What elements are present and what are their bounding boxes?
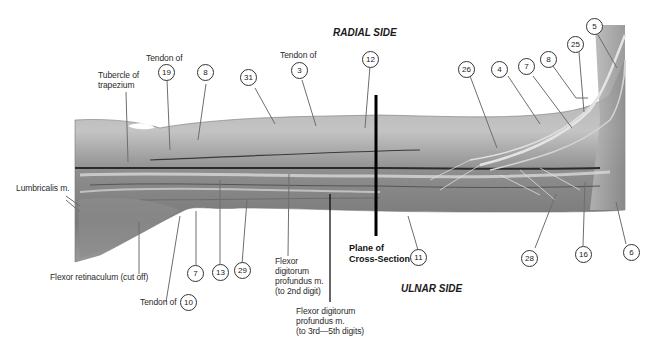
radial-side-label: RADIAL SIDE <box>333 27 397 38</box>
callout-31: 31 <box>240 69 257 86</box>
callout-29: 29 <box>234 262 251 279</box>
callout-12: 12 <box>362 51 379 68</box>
tendon-of-19-label: Tendon of <box>146 53 182 63</box>
plane-of-cross-section-label: Plane of Cross-Section <box>349 243 410 265</box>
tubercle-of-trapezium-label: Tubercle of trapezium <box>98 70 139 90</box>
callout-25: 25 <box>567 36 584 53</box>
callout-26: 26 <box>458 61 475 78</box>
callout-3: 3 <box>291 62 308 79</box>
forearm-specimen-illustration <box>0 0 659 352</box>
callout-4: 4 <box>491 61 508 78</box>
callout-11: 11 <box>410 249 427 266</box>
callout-28: 28 <box>521 250 538 267</box>
callout-19: 19 <box>158 64 175 81</box>
tendon-of-10-label: Tendon of <box>140 297 176 307</box>
flexor-retinaculum-label: Flexor retinaculum (cut off) <box>50 272 148 282</box>
callout-7-bottom: 7 <box>187 265 204 282</box>
fdp-3rd-5th-digits-label: Flexor digitorum profundus m. (to 3rd—5t… <box>296 306 364 336</box>
anatomy-figure: RADIAL SIDE ULNAR SIDE Plane of Cross-Se… <box>0 0 659 352</box>
callout-5: 5 <box>586 18 603 35</box>
callout-7-top: 7 <box>518 58 535 75</box>
callout-8-top-right: 8 <box>540 51 557 68</box>
lumbricalis-label: Lumbricalis m. <box>16 183 69 193</box>
callout-13: 13 <box>212 264 229 281</box>
callout-16: 16 <box>575 246 592 263</box>
callout-10: 10 <box>180 294 197 311</box>
fdp-2nd-digit-label: Flexor digitorum profundus m. (to 2nd di… <box>275 256 323 296</box>
callout-6: 6 <box>623 244 640 261</box>
tendon-of-3-label: Tendon of <box>280 50 316 60</box>
specimen-body <box>75 60 625 262</box>
callout-8-top-left: 8 <box>197 64 214 81</box>
ulnar-side-label: ULNAR SIDE <box>401 283 462 294</box>
